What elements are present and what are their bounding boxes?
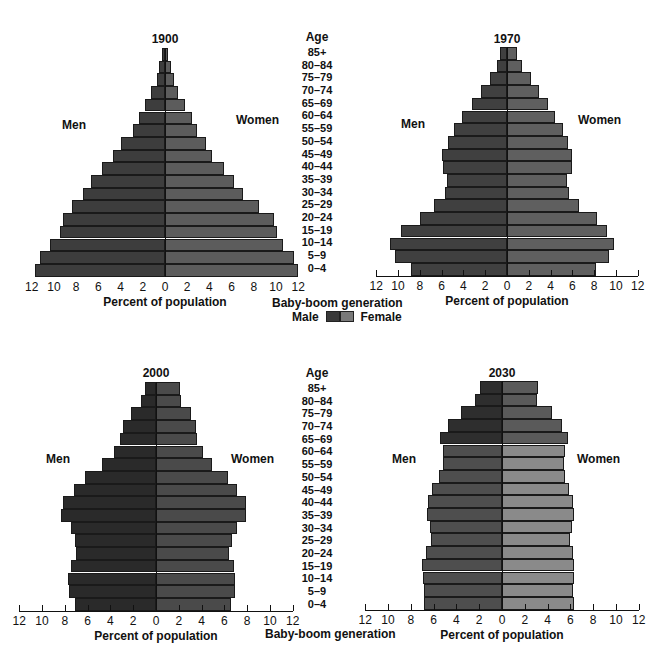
x-axis <box>19 611 293 612</box>
men-label: Men <box>392 452 416 466</box>
x-axis <box>32 277 298 278</box>
bar-men-80-84 <box>141 395 156 408</box>
x-tick <box>420 270 421 276</box>
bar-men-35-39 <box>61 509 156 522</box>
bar-women-0-4 <box>165 264 298 277</box>
bar-women-35-39 <box>165 175 234 188</box>
x-tick-label: 8 <box>55 614 75 628</box>
bar-men-65-69 <box>145 99 165 112</box>
age-label: 85+ <box>282 382 352 395</box>
age-label: 65–69 <box>282 433 352 446</box>
bar-men-20-24 <box>76 547 156 560</box>
x-tick <box>572 270 573 276</box>
x-tick-label: 12 <box>283 614 303 628</box>
bar-men-20-24 <box>420 212 507 225</box>
age-label: 55–59 <box>282 122 352 135</box>
age-header: Age <box>282 366 352 382</box>
men-label: Men <box>62 118 86 132</box>
bar-women-0-4 <box>156 598 231 611</box>
age-label: 55–59 <box>282 458 352 471</box>
age-label: 20–24 <box>282 547 352 560</box>
bar-men-75-79 <box>157 73 165 86</box>
bar-men-60-64 <box>139 112 165 125</box>
bar-women-30-34 <box>502 521 572 534</box>
bar-men-75-79 <box>490 72 507 85</box>
bar-men-45-49 <box>432 483 502 496</box>
bar-women-25-29 <box>165 200 259 213</box>
bar-women-35-39 <box>507 174 567 187</box>
x-tick <box>616 270 617 276</box>
age-column-top: Age 85+80–8475–7970–7465–6960–6455–5950–… <box>282 30 352 274</box>
bar-women-65-69 <box>502 432 568 445</box>
x-tick-label: 0 <box>146 614 166 628</box>
x-tick-label: 4 <box>100 614 120 628</box>
bar-women-50-54 <box>165 137 206 150</box>
bar-men-40-44 <box>63 496 156 509</box>
age-label: 75–79 <box>282 407 352 420</box>
bar-women-55-59 <box>156 458 212 471</box>
bar-women-70-74 <box>502 419 562 432</box>
x-tick <box>247 605 248 611</box>
bar-women-55-59 <box>507 123 563 136</box>
x-tick <box>133 605 134 611</box>
bar-women-85+ <box>156 382 180 395</box>
x-tick <box>19 605 20 611</box>
x-tick <box>616 604 617 610</box>
legend-female-swatch <box>340 311 354 322</box>
men-label: Men <box>46 452 70 466</box>
bar-women-45-49 <box>502 483 569 496</box>
women-label: Women <box>578 113 621 127</box>
bar-women-5-9 <box>156 585 235 598</box>
x-tick-label: 6 <box>562 279 582 293</box>
x-tick <box>65 605 66 611</box>
bar-men-55-59 <box>454 123 507 136</box>
bar-women-55-59 <box>502 457 564 470</box>
x-axis-label: Percent of population <box>65 295 265 309</box>
x-tick <box>434 604 435 610</box>
chart-title: 1970 <box>477 32 537 46</box>
x-tick-label: 6 <box>88 280 108 294</box>
x-tick-label: 8 <box>244 280 264 294</box>
age-label: 20–24 <box>282 211 352 224</box>
bar-women-10-14 <box>507 238 614 251</box>
bar-women-60-64 <box>165 112 192 125</box>
bar-women-30-34 <box>156 522 237 535</box>
bar-women-70-74 <box>156 420 196 433</box>
x-tick-label: 2 <box>519 279 539 293</box>
bar-women-60-64 <box>502 445 565 458</box>
bar-women-45-49 <box>165 150 212 163</box>
age-label: 15–19 <box>282 224 352 237</box>
bar-women-45-49 <box>507 149 572 162</box>
bar-women-0-4 <box>507 263 596 276</box>
bar-men-10-14 <box>50 239 165 252</box>
legend-title: Baby-boom generation <box>265 627 396 641</box>
bar-women-50-54 <box>502 470 565 483</box>
age-label: 60–64 <box>282 109 352 122</box>
age-label: 5–9 <box>282 585 352 598</box>
x-tick <box>42 605 43 611</box>
age-label: 80–84 <box>282 395 352 408</box>
bar-men-5-9 <box>424 584 502 597</box>
x-tick-label: 4 <box>453 279 473 293</box>
bar-men-25-29 <box>75 534 156 547</box>
age-label: 35–39 <box>282 509 352 522</box>
bar-women-20-24 <box>507 212 597 225</box>
legend-female-label: Female <box>360 310 401 324</box>
bar-women-75-79 <box>507 72 531 85</box>
bar-men-75-79 <box>461 406 502 419</box>
x-tick-label: 12 <box>9 614 29 628</box>
bar-men-5-9 <box>69 585 156 598</box>
x-tick <box>639 604 640 610</box>
bar-men-60-64 <box>462 111 507 124</box>
age-label: 80–84 <box>282 59 352 72</box>
bar-men-80-84 <box>497 60 507 73</box>
x-tick <box>202 605 203 611</box>
x-tick-label: 0 <box>492 613 512 627</box>
bar-women-40-44 <box>502 495 573 508</box>
x-tick <box>502 604 503 610</box>
bar-women-25-29 <box>502 533 570 546</box>
bar-men-50-54 <box>121 137 165 150</box>
bar-women-15-19 <box>507 225 607 238</box>
bar-men-55-59 <box>443 457 502 470</box>
bar-women-35-39 <box>502 508 574 521</box>
